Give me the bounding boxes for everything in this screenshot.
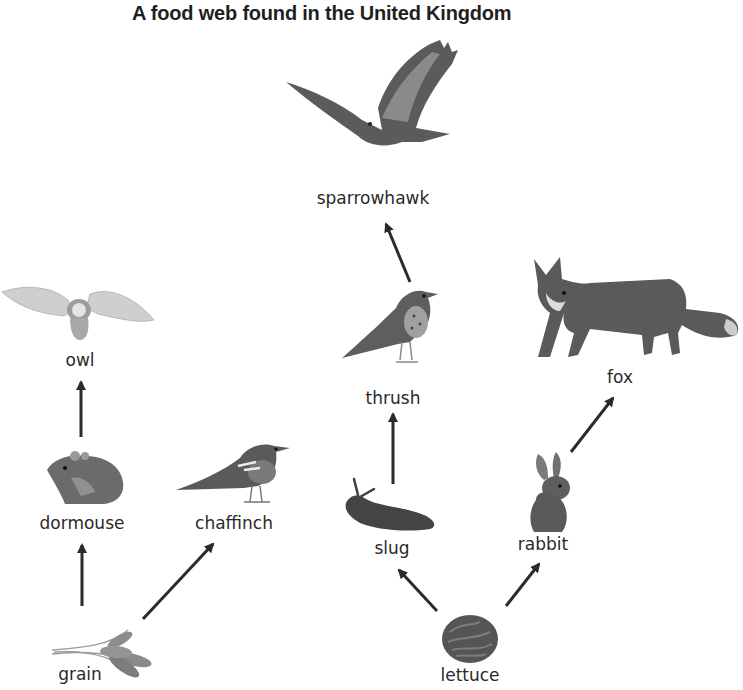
arrow-lettuce-to-rabbit [506, 564, 539, 606]
sparrowhawk-icon [282, 38, 472, 158]
label-slug: slug [374, 538, 409, 558]
rabbit-icon [526, 452, 578, 534]
slug-icon [344, 477, 438, 533]
arrow-thrush-to-sparrowhawk [386, 224, 410, 282]
fox-icon [530, 253, 742, 363]
label-grain: grain [58, 664, 102, 684]
label-rabbit: rabbit [518, 534, 568, 554]
label-thrush: thrush [366, 388, 421, 408]
label-owl: owl [65, 350, 94, 370]
label-fox: fox [607, 367, 633, 387]
arrow-rabbit-to-fox [571, 398, 613, 452]
thrush-icon [340, 286, 440, 366]
lettuce-icon [440, 614, 500, 664]
dormouse-icon [45, 450, 127, 506]
label-lettuce: lettuce [440, 665, 499, 685]
label-sparrowhawk: sparrowhawk [317, 188, 430, 208]
arrow-lettuce-to-slug [399, 570, 437, 611]
label-dormouse: dormouse [40, 513, 125, 533]
label-chaffinch: chaffinch [195, 513, 273, 533]
chaffinch-icon [174, 440, 292, 504]
arrow-grain-to-chaffinch [143, 544, 213, 619]
owl-icon [0, 280, 156, 342]
